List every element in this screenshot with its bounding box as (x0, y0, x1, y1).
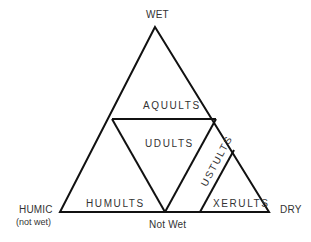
not-wet-sub-label: (not wet) (16, 218, 51, 227)
region-humults: HUMULTS (86, 199, 145, 209)
not-wet-label: Not Wet (149, 220, 186, 230)
region-aquults: AQUULTS (143, 101, 201, 111)
wet-label: WET (146, 10, 169, 20)
soil-triangle-diagram: WET HUMIC (not wet) DRY Not Wet AQUULTS … (0, 0, 311, 242)
region-xerults: XERULTS (213, 199, 270, 209)
dry-label: DRY (280, 205, 302, 215)
region-udults: UDULTS (145, 139, 194, 149)
humic-label: HUMIC (19, 205, 53, 215)
